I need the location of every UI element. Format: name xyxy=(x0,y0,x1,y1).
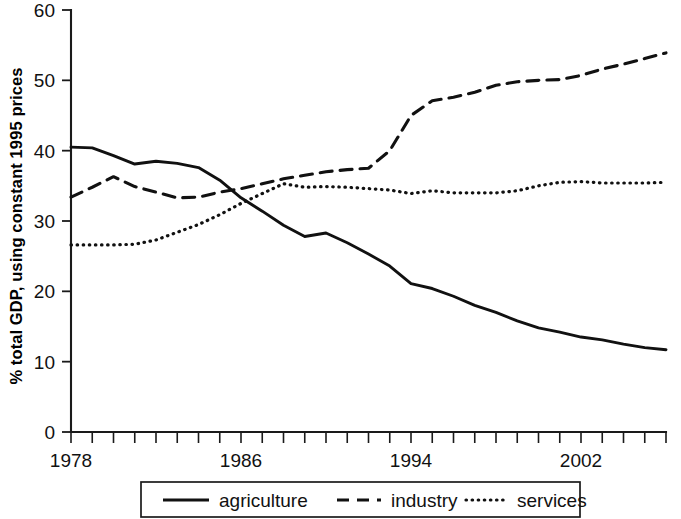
line-chart: % total GDP, using constant 1995 prices … xyxy=(0,0,681,519)
y-tick-label: 30 xyxy=(34,211,55,232)
x-tick-label: 1978 xyxy=(50,450,92,471)
y-tick-label: 0 xyxy=(44,422,55,443)
x-tick-label: 1986 xyxy=(220,450,262,471)
y-tick-label: 60 xyxy=(34,0,55,21)
y-axis-title: % total GDP, using constant 1995 prices xyxy=(7,67,25,384)
y-tick-label: 10 xyxy=(34,352,55,373)
chart-legend: agricultureindustryservices xyxy=(141,482,587,517)
series-line-agriculture xyxy=(71,147,666,350)
y-axis-title-group: % total GDP, using constant 1995 prices xyxy=(7,67,25,384)
y-tick-label: 20 xyxy=(34,281,55,302)
y-tick-label: 50 xyxy=(34,70,55,91)
data-series-group xyxy=(71,53,666,350)
y-tick-label: 40 xyxy=(34,141,55,162)
legend-label-services: services xyxy=(517,490,587,511)
x-axis-ticks: 1978198619942002 xyxy=(50,432,666,471)
chart-container: % total GDP, using constant 1995 prices … xyxy=(0,0,681,519)
series-line-industry xyxy=(71,53,666,198)
series-line-services xyxy=(71,182,666,245)
x-tick-label: 1994 xyxy=(390,450,433,471)
y-axis-ticks: 0102030405060 xyxy=(34,0,71,443)
legend-label-agriculture: agriculture xyxy=(219,490,308,511)
x-tick-label: 2002 xyxy=(560,450,602,471)
legend-label-industry: industry xyxy=(391,490,458,511)
